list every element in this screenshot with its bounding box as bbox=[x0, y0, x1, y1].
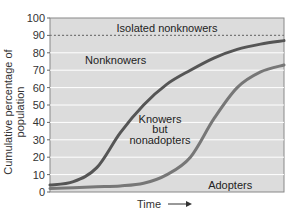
diffusion-chart: 0102030405060708090100 Isolated nonknowe… bbox=[0, 0, 298, 218]
y-tick-label: 90 bbox=[33, 29, 45, 41]
y-tick-label: 0 bbox=[39, 186, 45, 198]
y-tick-label: 10 bbox=[33, 169, 45, 181]
y-axis-label: Cumulative percentage of population bbox=[2, 48, 26, 176]
annotation-label: Nonknowers bbox=[85, 54, 147, 66]
y-tick-label: 40 bbox=[33, 116, 45, 128]
y-tick-label: 80 bbox=[33, 47, 45, 59]
y-tick-label: 70 bbox=[33, 64, 45, 76]
y-tick-label: 30 bbox=[33, 134, 45, 146]
y-tick-label: 20 bbox=[33, 151, 45, 163]
y-tick-label: 60 bbox=[33, 82, 45, 94]
time-arrow-icon bbox=[168, 201, 192, 207]
y-axis-ticks: 0102030405060708090100 bbox=[27, 12, 50, 198]
y-tick-label: 100 bbox=[27, 12, 45, 24]
annotation-label: Adopters bbox=[208, 179, 253, 191]
x-axis-label: Time bbox=[137, 198, 161, 210]
y-tick-label: 50 bbox=[33, 99, 45, 111]
annotation-label: Isolated nonknowers bbox=[117, 22, 218, 34]
annotation-label: nonadopters bbox=[129, 134, 191, 146]
